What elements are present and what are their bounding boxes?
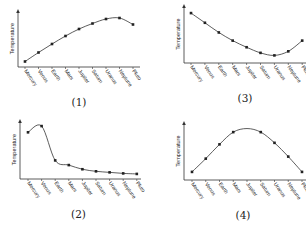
data-point-marker xyxy=(204,21,207,24)
x-tick-label: Jupiter xyxy=(245,181,259,197)
x-tick-label: Earth xyxy=(50,68,62,82)
x-tick-label: Saturn xyxy=(259,64,273,80)
data-point-marker xyxy=(132,23,135,26)
data-point-marker xyxy=(81,168,84,171)
data-point-marker xyxy=(118,17,121,20)
chart-caption: (2) xyxy=(71,208,86,220)
x-tick-label: Uranus xyxy=(108,180,123,197)
data-point-marker xyxy=(232,131,235,134)
data-point-marker xyxy=(301,39,304,42)
data-line xyxy=(191,13,302,55)
data-point-marker xyxy=(218,31,221,34)
data-line xyxy=(25,18,133,62)
y-axis-title: Temperature xyxy=(175,18,181,49)
x-tick-label: Pluto xyxy=(300,181,306,194)
data-point-marker xyxy=(301,171,304,174)
y-axis-arrow-icon xyxy=(182,4,186,8)
chart-canvas: TemperatureMercuryVenusEarthMarsJupiterS… xyxy=(0,0,306,227)
data-point-marker xyxy=(51,43,54,46)
x-tick-label: Uranus xyxy=(104,68,119,85)
x-tick-label: Jupiter xyxy=(245,64,259,80)
data-point-marker xyxy=(24,60,27,63)
x-tick-label: Mars xyxy=(231,181,243,194)
data-point-marker xyxy=(287,50,290,53)
chart-caption: (3) xyxy=(238,92,253,104)
x-tick-label: Venus xyxy=(204,181,217,197)
data-point-marker xyxy=(108,171,111,174)
data-point-marker xyxy=(204,157,207,160)
chart-3: TemperatureMercuryVenusEarthMarsJupiterS… xyxy=(175,4,306,104)
chart-1: TemperatureMercuryVenusEarthMarsJupiterS… xyxy=(9,9,143,108)
x-tick-label: Pluto xyxy=(131,68,143,81)
data-point-marker xyxy=(27,131,30,134)
data-point-marker xyxy=(136,173,139,176)
x-tick-label: Jupiter xyxy=(81,180,95,196)
x-tick-label: Mars xyxy=(231,64,243,77)
data-point-marker xyxy=(287,155,290,158)
data-point-marker xyxy=(37,51,40,54)
data-point-marker xyxy=(231,39,234,42)
chart-4: TemperatureMercuryVenusEarthMarsJupiterS… xyxy=(175,121,306,221)
x-tick-label: Venus xyxy=(37,68,50,84)
data-point-marker xyxy=(91,22,94,25)
data-point-marker xyxy=(40,125,43,128)
x-tick-label: Pluto xyxy=(135,180,147,193)
x-tick-label: Earth xyxy=(53,180,65,194)
data-point-marker xyxy=(259,52,262,55)
x-tick-label: Earth xyxy=(218,181,230,195)
x-tick-label: Venus xyxy=(40,180,53,196)
x-tick-label: Jupiter xyxy=(77,68,91,84)
x-tick-label: Mars xyxy=(64,68,76,81)
x-tick-label: Mars xyxy=(67,180,79,193)
chart-caption: (1) xyxy=(72,96,87,108)
data-point-marker xyxy=(54,159,57,162)
data-line xyxy=(28,125,137,174)
data-point-marker xyxy=(95,170,98,173)
x-tick-label: Saturn xyxy=(91,68,105,84)
x-tick-label: Saturn xyxy=(94,180,108,196)
data-point-marker xyxy=(245,46,248,49)
data-line xyxy=(192,129,302,172)
x-tick-label: Uranus xyxy=(273,64,288,81)
data-point-marker xyxy=(273,142,276,145)
y-axis-arrow-icon xyxy=(16,9,20,13)
x-tick-label: Saturn xyxy=(259,181,273,197)
y-axis-title: Temperature xyxy=(11,134,17,165)
data-point-marker xyxy=(122,172,125,175)
x-tick-label: Uranus xyxy=(273,181,288,198)
data-point-marker xyxy=(191,171,194,174)
chart-2: TemperatureMercuryVenusEarthMarsJupiterS… xyxy=(11,119,147,220)
data-point-marker xyxy=(68,164,71,167)
x-tick-label: Earth xyxy=(217,64,229,78)
y-axis-title: Temperature xyxy=(175,135,181,166)
data-point-marker xyxy=(64,35,67,38)
data-point-marker xyxy=(273,54,276,57)
data-point-marker xyxy=(78,28,81,31)
y-axis-arrow-icon xyxy=(18,119,22,123)
x-tick-label: Venus xyxy=(203,64,216,80)
y-axis-arrow-icon xyxy=(182,121,186,125)
data-point-marker xyxy=(105,18,108,21)
data-point-marker xyxy=(190,12,193,15)
data-point-marker xyxy=(218,143,221,146)
y-axis-title: Temperature xyxy=(9,23,15,54)
data-point-marker xyxy=(259,131,262,134)
chart-caption: (4) xyxy=(236,209,251,221)
x-tick-label: Pluto xyxy=(300,64,306,77)
